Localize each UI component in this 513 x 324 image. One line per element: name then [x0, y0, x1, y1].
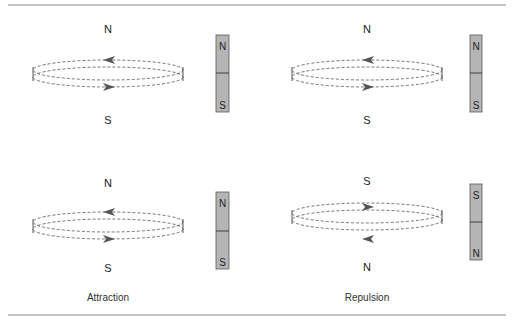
loop-top-label: S	[363, 175, 370, 187]
loop-bottom-label: N	[363, 261, 371, 273]
caption-repulsion: Repulsion	[345, 292, 389, 303]
current-loop	[33, 56, 183, 91]
bar-magnet: N S	[470, 35, 482, 112]
loop-lower-edge	[292, 67, 442, 87]
loop-bottom-label: S	[104, 262, 111, 274]
loop-bottom-label: S	[104, 114, 111, 126]
current-loop	[292, 203, 442, 243]
panel-bottom-left: N S N S	[33, 177, 229, 274]
arrow-left-icon	[362, 235, 374, 243]
panel-top-right: N S N S	[292, 23, 482, 126]
magnet-bottom-pole: S	[219, 257, 226, 268]
panel-top-left: N S N S	[33, 23, 229, 126]
magnet-bottom-pole: S	[219, 100, 226, 111]
loop-lower-edge	[33, 219, 183, 239]
panel-bottom-right: S N S N	[292, 175, 482, 273]
current-loop	[292, 56, 442, 91]
magnet-top-pole: N	[219, 41, 226, 52]
loop-bottom-label: S	[363, 114, 370, 126]
magnet-bottom-pole: S	[473, 100, 480, 111]
loop-lower-edge	[292, 210, 442, 230]
current-loop	[33, 208, 183, 243]
loop-top-label: N	[104, 23, 112, 35]
magnet-top-pole: S	[473, 190, 480, 201]
loop-top-label: N	[363, 23, 371, 35]
bar-magnet: N S	[216, 192, 229, 269]
magnet-top-pole: N	[472, 41, 479, 52]
caption-attraction: Attraction	[87, 292, 129, 303]
loop-lower-edge	[33, 67, 183, 87]
magnet-loop-diagram: N S N S N S N	[0, 0, 513, 324]
magnet-bottom-pole: N	[472, 248, 479, 259]
bar-magnet: N S	[216, 35, 229, 112]
loop-top-label: N	[104, 177, 112, 189]
magnet-top-pole: N	[219, 198, 226, 209]
bar-magnet: S N	[470, 184, 482, 260]
